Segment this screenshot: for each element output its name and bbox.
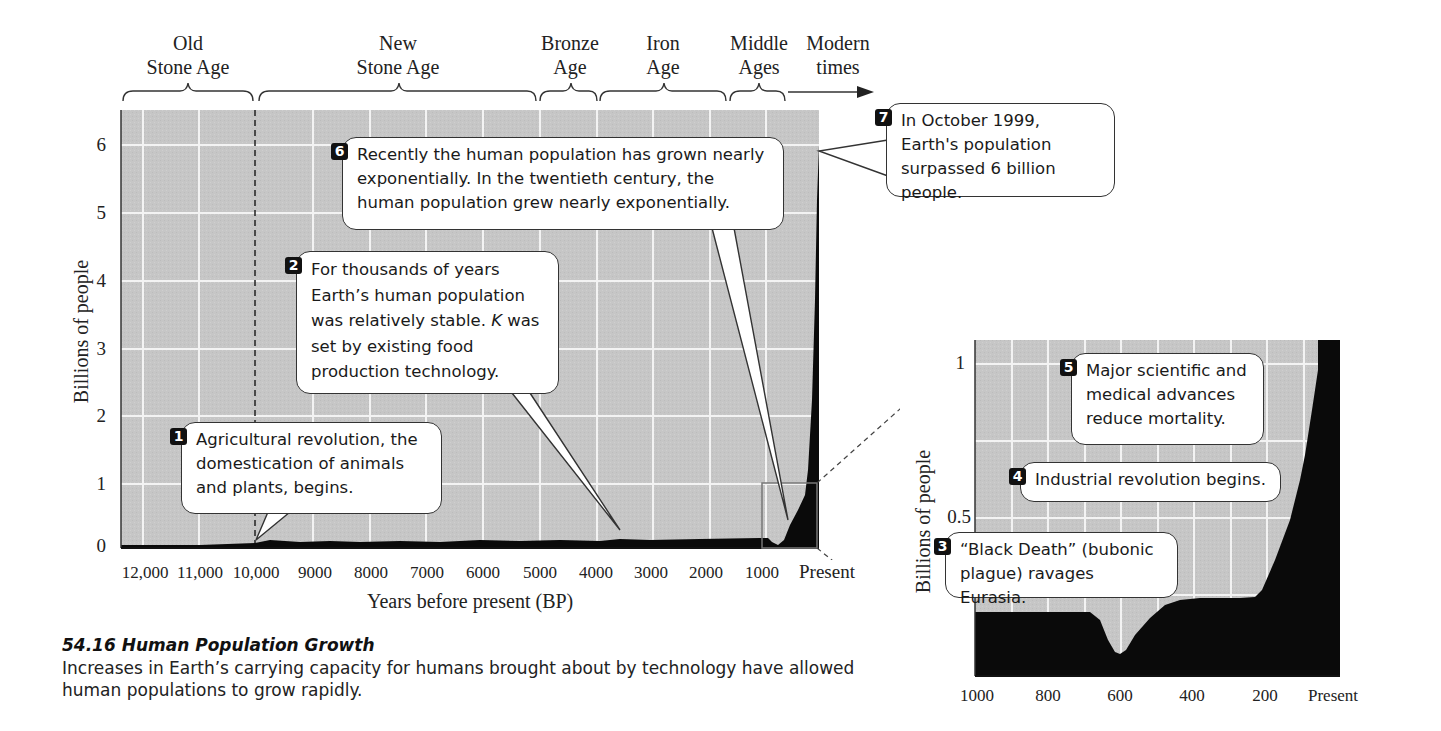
callout-text: Industrial revolution begins. [1035, 470, 1266, 489]
inset-y-axis-title: Billions of people [912, 437, 935, 607]
inset-x-tick: 800 [1035, 686, 1061, 706]
callout-number-badge: 4 [1009, 468, 1026, 485]
inset-x-tick: 600 [1107, 686, 1133, 706]
callout-4: 4Industrial revolution begins. [1020, 462, 1281, 502]
callout-5: 5Major scientific and medical advances r… [1071, 353, 1264, 445]
inset-x-tick-present: Present [1308, 686, 1358, 706]
figure-caption-body: Increases in Earth’s carrying capacity f… [62, 657, 882, 701]
callout-text: “Black Death” (bubonic plague) ravages E… [960, 540, 1154, 607]
callout-number-badge: 3 [934, 538, 951, 555]
inset-y-tick: 0.5 [935, 506, 971, 528]
inset-y-tick: 1 [935, 352, 965, 374]
callout-text: Major scientific and medical advances re… [1086, 361, 1247, 428]
figure-caption-title: 54.16 Human Population Growth [62, 635, 375, 655]
inset-x-tick: 200 [1252, 686, 1278, 706]
callout-3: 3“Black Death” (bubonic plague) ravages … [945, 532, 1178, 598]
inset-x-tick: 1000 [960, 686, 994, 706]
callout-number-badge: 5 [1060, 359, 1077, 376]
inset-x-tick: 400 [1179, 686, 1205, 706]
